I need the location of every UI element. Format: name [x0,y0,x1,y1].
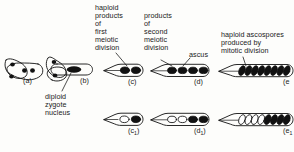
stage-b-cell-lower [47,67,67,81]
stage-e1-spores [237,114,291,126]
ascospore-dark [189,67,198,73]
leader-line-ascus [183,58,190,66]
nucleus-dot [52,60,57,64]
nucleus-dot [53,73,58,77]
ascospore-light [178,116,187,122]
ascospore-dark [199,67,208,73]
diploid-zygote-nucleus [67,66,81,72]
nucleus-dot [22,68,27,72]
ascospore-light [120,116,129,123]
stage-d-spores [168,67,208,73]
figure-canvas: haploid products of first meiotic divisi… [0,0,294,152]
nucleus-dot [30,68,35,72]
stage-a-nuclei [9,62,35,78]
nucleus-dot [10,62,15,66]
stage-d1-spores [168,116,208,122]
stage-e-spores [237,65,291,77]
ascospore-dark [131,67,140,74]
nucleus-dot [9,74,14,78]
ascospore-dark [178,67,187,73]
stage-c-spores [120,67,140,74]
ascospore-dark [189,116,198,122]
ascospore-dark [131,116,140,123]
ascospore-light [168,116,177,122]
ascospore-dark [120,67,129,74]
diagram-svg [0,0,294,152]
stage-c1-spores [120,116,141,123]
ascospore-dark [199,116,208,122]
ascospore-dark [168,67,177,73]
